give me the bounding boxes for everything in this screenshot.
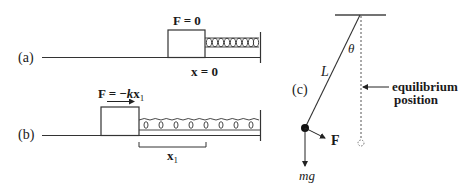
pendulum-string xyxy=(305,15,360,128)
equilibrium-label-line2: position xyxy=(394,92,439,107)
panel-b-label: (b) xyxy=(18,127,35,143)
panel-b: (b) F = −kx1 x1 xyxy=(18,86,261,165)
panel-a-label: (a) xyxy=(18,50,34,66)
panel-c-label: (c) xyxy=(292,82,308,98)
panel-a: (a) F = 0 x = 0 xyxy=(18,13,261,79)
force-label-a: F = 0 xyxy=(173,13,201,28)
position-label-a: x = 0 xyxy=(191,64,218,79)
length-label: L xyxy=(320,64,329,79)
displacement-label: x1 xyxy=(167,148,178,165)
oscillator-diagram: (a) F = 0 x = 0 (b) xyxy=(0,0,464,189)
spring-a xyxy=(205,38,259,47)
force-arrow-c xyxy=(305,128,325,138)
angle-label: θ xyxy=(348,41,355,56)
displacement-bracket xyxy=(139,142,206,147)
spring-b xyxy=(139,119,260,131)
panel-c: (c) θ L equilibrium position F mg xyxy=(292,15,458,183)
block-b xyxy=(101,107,139,136)
force-label-b: F = −kx1 xyxy=(98,86,144,103)
weight-label: mg xyxy=(299,168,315,183)
force-label-c: F xyxy=(331,133,340,148)
block-a xyxy=(168,30,205,58)
equilibrium-bob-outline xyxy=(358,140,364,146)
